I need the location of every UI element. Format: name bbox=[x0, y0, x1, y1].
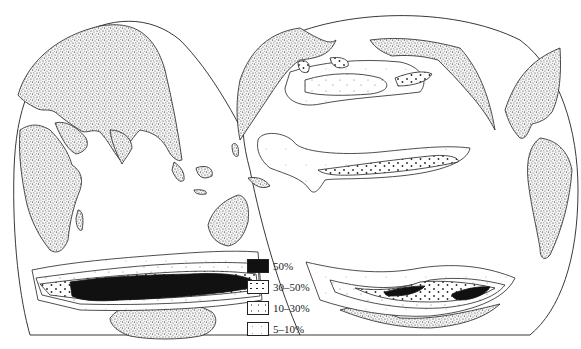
legend-label: 50% bbox=[273, 260, 293, 272]
legend: 50% 30–50% 10–30% 5–10% bbox=[247, 255, 310, 339]
legend-label: 10–30% bbox=[273, 302, 310, 314]
legend-swatch-5-10 bbox=[247, 322, 269, 336]
legend-swatch-50 bbox=[247, 259, 269, 273]
legend-item-50: 50% bbox=[247, 255, 310, 276]
zone-10-30-north-pacific bbox=[305, 74, 387, 96]
legend-item-30-50: 30–50% bbox=[247, 276, 310, 297]
legend-label: 30–50% bbox=[273, 281, 310, 293]
legend-swatch-10-30 bbox=[247, 301, 269, 315]
legend-swatch-30-50 bbox=[247, 280, 269, 294]
legend-item-10-30: 10–30% bbox=[247, 297, 310, 318]
legend-label: 5–10% bbox=[273, 323, 304, 335]
legend-item-5-10: 5–10% bbox=[247, 318, 310, 339]
